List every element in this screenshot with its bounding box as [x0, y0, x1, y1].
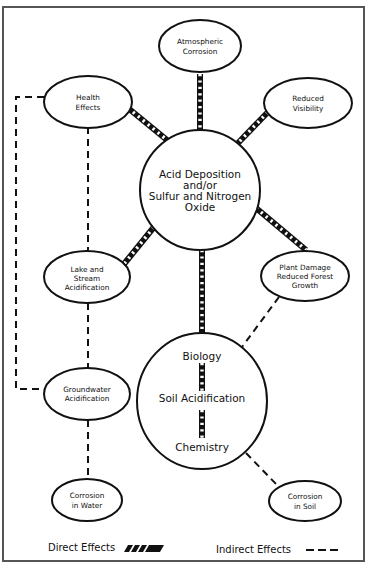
node-label: Reduced Forest: [277, 272, 333, 281]
node-label: Growth: [292, 281, 318, 290]
node-health-effects: Health Effects: [44, 76, 132, 128]
node-label: Stream: [74, 274, 100, 283]
node-corrosion-in-soil: Corrosion in Soil: [269, 481, 341, 521]
node-label: Health: [76, 93, 100, 102]
legend-direct-label: Direct Effects: [48, 542, 115, 553]
legend-indirect-label: Indirect Effects: [216, 544, 291, 555]
node-plant-damage: Plant Damage Reduced Forest Growth: [261, 251, 349, 301]
node-label: Reduced: [292, 94, 324, 103]
soil-acidification-label: Soil Acidification: [159, 392, 245, 404]
node-label: Groundwater: [63, 385, 111, 394]
node-groundwater-acidification: Groundwater Acidification: [44, 368, 130, 420]
node-atmospheric-corrosion: Atmospheric Corrosion: [159, 20, 241, 72]
soil-biology-label: Biology: [183, 350, 222, 362]
node-label: Corrosion: [288, 492, 323, 501]
node-label: in Soil: [294, 502, 316, 511]
node-label: Visibility: [293, 104, 324, 113]
edge-plant-soil: [242, 297, 279, 347]
node-label: Effects: [76, 103, 101, 112]
node-corrosion-in-water: Corrosion in Water: [52, 479, 122, 521]
node-soil-acidification: Biology Soil Acidification Chemistry: [137, 333, 267, 469]
node-label: Corrosion: [183, 47, 218, 56]
node-acid-deposition: Acid Deposition and/or Sulfur and Nitrog…: [140, 130, 260, 250]
node-label: Lake and: [70, 265, 103, 274]
node-label: in Water: [72, 501, 103, 510]
acid-deposition-effects-diagram: Atmospheric Corrosion Health Effects Red…: [0, 0, 367, 564]
node-label: Corrosion: [70, 491, 105, 500]
node-label: Acidification: [65, 394, 110, 403]
node-reduced-visibility: Reduced Visibility: [264, 78, 352, 128]
edge-health-groundwater: [16, 97, 44, 389]
node-label: Acidification: [65, 283, 110, 292]
node-label: Plant Damage: [279, 263, 331, 272]
node-label: Oxide: [185, 201, 216, 213]
legend-direct-swatch-icon: [124, 545, 164, 552]
soil-chemistry-label: Chemistry: [175, 441, 229, 453]
node-label: Atmospheric: [177, 37, 223, 46]
legend: Direct Effects Indirect Effects: [48, 542, 338, 555]
node-lake-stream-acidification: Lake and Stream Acidification: [44, 251, 130, 303]
edge-soil-corrosion-soil: [246, 453, 277, 485]
